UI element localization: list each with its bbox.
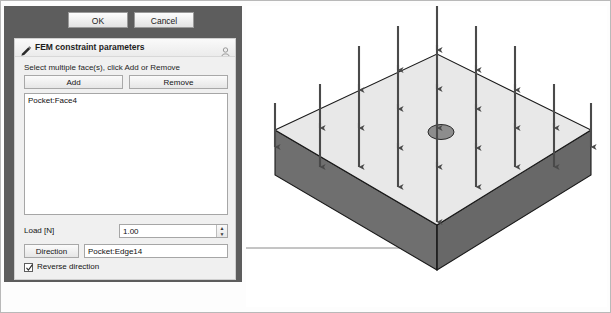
model-canvas <box>246 6 607 307</box>
load-value: 1.00 <box>123 227 139 236</box>
direction-input[interactable]: Pocket:Edge14 <box>84 244 228 258</box>
load-row: Load [N] 1.00 ▲ ▼ <box>24 224 228 238</box>
direction-row: Direction Pocket:Edge14 <box>24 244 228 258</box>
list-item[interactable]: Pocket:Face4 <box>25 94 227 105</box>
3d-viewport[interactable] <box>246 6 607 307</box>
block-solid <box>275 54 591 270</box>
selection-hint: Select multiple face(s), click Add or Re… <box>24 63 180 72</box>
direction-value: Pocket:Edge14 <box>88 247 142 256</box>
task-panel: OK Cancel FEM constraint parameters <box>4 6 242 282</box>
pencil-icon <box>20 43 32 54</box>
direction-button[interactable]: Direction <box>24 244 79 258</box>
selection-listbox[interactable]: Pocket:Face4 <box>24 93 228 215</box>
collapse-icon[interactable] <box>221 43 230 53</box>
dialog-action-bar: OK Cancel <box>4 12 242 30</box>
reverse-direction-label: Reverse direction <box>37 262 99 271</box>
dialog-title-bar: FEM constraint parameters <box>15 39 235 57</box>
load-stepper[interactable]: ▲ ▼ <box>216 225 227 237</box>
add-button[interactable]: Add <box>24 75 123 89</box>
fem-constraint-dialog: FEM constraint parameters Select multipl… <box>14 38 236 280</box>
cancel-button[interactable]: Cancel <box>134 12 194 28</box>
load-label: Load [N] <box>24 226 54 235</box>
screenshot-root: OK Cancel FEM constraint parameters <box>0 0 611 313</box>
checkbox-box[interactable] <box>24 263 33 272</box>
add-remove-row: Add Remove <box>24 75 228 89</box>
ok-button[interactable]: OK <box>68 12 128 28</box>
dialog-title: FEM constraint parameters <box>35 42 145 52</box>
load-input[interactable]: 1.00 ▲ ▼ <box>119 224 228 238</box>
remove-button[interactable]: Remove <box>129 75 228 89</box>
stepper-down-icon[interactable]: ▼ <box>217 231 227 237</box>
hole-ellipse <box>428 125 454 140</box>
